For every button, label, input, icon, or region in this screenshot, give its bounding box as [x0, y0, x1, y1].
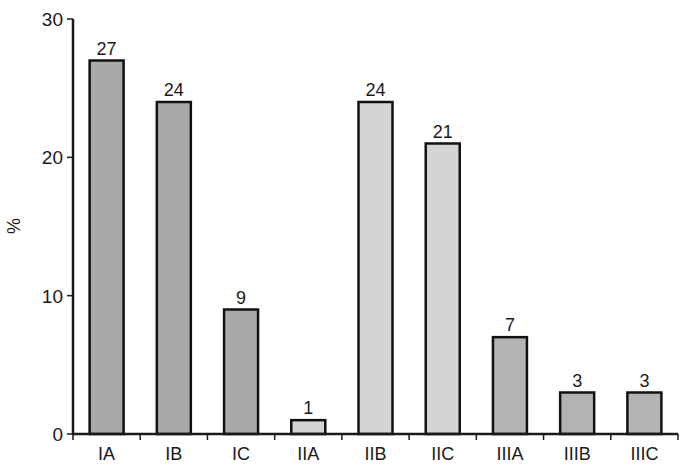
y-tick-label-0: 0	[52, 424, 63, 445]
y-axis-label: %	[4, 218, 24, 234]
data-label-ib: 24	[164, 80, 184, 100]
x-tick-label-ib: IB	[165, 444, 182, 464]
data-label-iiia: 7	[505, 315, 515, 335]
x-tick-label-iiia: IIIA	[496, 444, 523, 464]
bar-iib	[359, 102, 393, 434]
x-tick-label-iia: IIA	[297, 444, 319, 464]
data-label-iia: 1	[303, 398, 313, 418]
data-label-ia: 27	[97, 39, 117, 59]
x-tick-label-iiib: IIIB	[564, 444, 591, 464]
y-tick-label-20: 20	[42, 147, 63, 168]
x-tick-label-iiic: IIIC	[630, 444, 658, 464]
bar-ic	[224, 310, 258, 435]
bar-iiic	[627, 393, 661, 435]
x-tick-label-iib: IIB	[364, 444, 386, 464]
bars-group: 27IA24IB9IC1IIA24IIB21IIC7IIIA3IIIB3IIIC	[90, 39, 662, 465]
data-label-iiib: 3	[572, 371, 582, 391]
data-label-iib: 24	[365, 80, 385, 100]
bar-chart: 27IA24IB9IC1IIA24IIB21IIC7IIIA3IIIB3IIIC…	[0, 0, 691, 474]
bar-iiib	[560, 393, 594, 435]
data-label-ic: 9	[236, 288, 246, 308]
y-tick-label-30: 30	[42, 9, 63, 30]
bar-iia	[291, 420, 325, 434]
x-tick-label-ic: IC	[232, 444, 250, 464]
bar-iic	[426, 144, 460, 435]
data-label-iiic: 3	[639, 371, 649, 391]
y-tick-label-10: 10	[42, 286, 63, 307]
x-tick-label-ia: IA	[98, 444, 115, 464]
bar-iiia	[493, 337, 527, 434]
bar-ia	[90, 61, 124, 435]
bar-ib	[157, 102, 191, 434]
data-label-iic: 21	[433, 122, 453, 142]
x-tick-label-iic: IIC	[431, 444, 454, 464]
